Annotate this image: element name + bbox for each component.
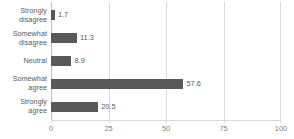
tick-label-0: 0 (36, 124, 66, 133)
bar-neutral (51, 56, 71, 66)
category-label-somewhat-agree: Somewhat agree (0, 75, 47, 92)
bar-somewhat-disagree (51, 33, 77, 43)
category-label-line: disagree (0, 39, 47, 48)
bar-strongly-agree (51, 102, 98, 112)
bar-value-strongly-disagree: 1.7 (58, 10, 68, 20)
category-label-line: disagree (0, 16, 47, 25)
category-label-neutral: Neutral (0, 57, 47, 66)
tick-mark-25 (109, 120, 110, 123)
tick-mark-75 (224, 120, 225, 123)
bar-somewhat-agree (51, 79, 183, 89)
gridline-100 (280, 2, 281, 120)
category-label-line: agree (0, 107, 47, 116)
tick-label-75: 75 (209, 124, 239, 133)
tick-mark-0 (51, 120, 52, 123)
tick-label-25: 25 (94, 124, 124, 133)
bar-value-somewhat-disagree: 11.3 (80, 33, 94, 43)
horizontal-bar-chart: Strongly disagree Somewhat disagree Neut… (0, 0, 294, 139)
plot-area: 1.7 11.3 8.9 57.6 20.5 (51, 2, 281, 120)
tick-label-50: 50 (151, 124, 181, 133)
bar-value-neutral: 8.9 (74, 56, 84, 66)
tick-mark-50 (166, 120, 167, 123)
category-label-line: agree (0, 84, 47, 93)
bar-strongly-disagree (51, 10, 55, 20)
category-label-line: Neutral (0, 57, 47, 66)
tick-label-100: 100 (266, 124, 294, 133)
bar-value-strongly-agree: 20.5 (101, 102, 115, 112)
category-label-somewhat-disagree: Somewhat disagree (0, 30, 47, 47)
category-axis-labels: Strongly disagree Somewhat disagree Neut… (0, 0, 51, 120)
gridline-50 (166, 2, 167, 120)
gridline-75 (224, 2, 225, 120)
tick-mark-100 (280, 120, 281, 123)
bar-value-somewhat-agree: 57.6 (186, 79, 200, 89)
category-label-strongly-agree: Strongly agree (0, 98, 47, 115)
category-label-strongly-disagree: Strongly disagree (0, 7, 47, 24)
